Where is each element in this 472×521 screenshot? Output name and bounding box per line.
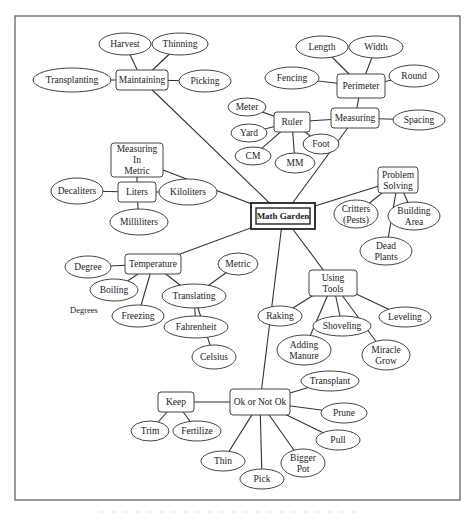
node-label-line: Maintaining: [119, 75, 166, 85]
node-label-line: Grow: [375, 356, 397, 366]
node-perimeter[interactable]: Perimeter: [337, 74, 385, 98]
node-boiling[interactable]: Boiling: [90, 279, 138, 301]
node-label-line: Miracle: [371, 345, 401, 355]
node-using-tools[interactable]: UsingTools: [309, 270, 357, 296]
node-label-line: Bigger: [290, 453, 317, 463]
node-meter[interactable]: Meter: [228, 98, 266, 116]
node-cm[interactable]: CM: [235, 147, 271, 165]
node-label-line: Liters: [126, 187, 148, 197]
node-label-line: Fertilize: [181, 426, 213, 436]
node-pull[interactable]: Pull: [316, 430, 360, 450]
node-label-line: Metric: [124, 166, 149, 176]
node-celsius[interactable]: Celsius: [192, 345, 236, 369]
node-length[interactable]: Length: [296, 36, 348, 58]
node-yard[interactable]: Yard: [231, 124, 267, 142]
node-dead-plants[interactable]: DeadPlants: [360, 237, 412, 265]
node-maintaining[interactable]: Maintaining: [116, 70, 168, 90]
node-thinning[interactable]: Thinning: [152, 33, 208, 55]
node-round[interactable]: Round: [389, 65, 439, 87]
node-problem-solving[interactable]: ProblemSolving: [378, 167, 418, 193]
node-label-line: Temperature: [129, 259, 177, 269]
node-keep[interactable]: Keep: [158, 392, 194, 412]
node-label-line: Meter: [236, 102, 260, 112]
node-label-line: Plants: [374, 252, 398, 262]
node-translating[interactable]: Translating: [162, 284, 226, 308]
node-label-line: Critters: [342, 204, 371, 214]
node-temperature[interactable]: Temperature: [125, 254, 181, 274]
node-shoveling[interactable]: Shoveling: [313, 316, 371, 336]
node-picking[interactable]: Picking: [179, 70, 231, 92]
node-label-line: Boiling: [100, 285, 129, 295]
node-critters[interactable]: Critters(Pests): [334, 200, 378, 228]
center-node-math-garden[interactable]: Math Garden: [251, 203, 315, 229]
node-label-line: Foot: [312, 139, 330, 149]
node-thin[interactable]: Thin: [201, 451, 245, 471]
free-label-degrees: Degrees: [70, 305, 98, 315]
node-leveling[interactable]: Leveling: [379, 307, 431, 327]
node-fahrenheit[interactable]: Fahrenheit: [164, 316, 228, 338]
node-foot[interactable]: Foot: [303, 134, 339, 154]
node-adding-manure[interactable]: AddingManure: [277, 335, 331, 365]
node-label-line: Pot: [297, 464, 310, 474]
node-label-line: Solving: [383, 181, 413, 191]
node-mm[interactable]: MM: [275, 153, 315, 173]
node-label-line: Length: [309, 42, 336, 52]
node-harvest[interactable]: Harvest: [99, 33, 151, 55]
node-ruler[interactable]: Ruler: [274, 112, 310, 132]
node-label-line: Measuring: [117, 144, 158, 154]
node-label-line: Using: [322, 273, 345, 283]
node-label-line: (Pests): [343, 215, 369, 226]
node-building-area[interactable]: BuildingArea: [388, 202, 440, 230]
node-ok-not-ok[interactable]: Ok or Not Ok: [230, 389, 290, 415]
node-label-line: Freezing: [121, 311, 154, 321]
node-label-line: Ruler: [281, 117, 303, 127]
node-label-line: Leveling: [388, 312, 422, 322]
node-fertilize[interactable]: Fertilize: [173, 421, 221, 441]
node-label-line: Prune: [333, 408, 355, 418]
node-raking[interactable]: Raking: [258, 306, 302, 326]
node-prune[interactable]: Prune: [321, 403, 367, 423]
node-metric[interactable]: Metric: [218, 253, 258, 275]
node-label-line: Shoveling: [323, 321, 362, 331]
node-kiloliters[interactable]: Kiloliters: [159, 179, 217, 205]
node-transplant[interactable]: Transplant: [301, 371, 359, 391]
node-label-line: Perimeter: [343, 81, 381, 91]
node-label-line: Measuring: [335, 113, 376, 123]
node-label-line: Kiloliters: [170, 187, 206, 197]
node-milliliters[interactable]: Milliliters: [110, 209, 168, 235]
node-trim[interactable]: Trim: [131, 421, 169, 441]
node-fencing[interactable]: Fencing: [265, 67, 319, 89]
node-label-line: Building: [397, 206, 431, 216]
node-label-line: Yard: [240, 128, 258, 138]
node-pick[interactable]: Pick: [240, 469, 284, 489]
node-bigger-pot[interactable]: BiggerPot: [281, 449, 325, 477]
node-label-line: Spacing: [404, 115, 435, 125]
node-measuring-metric[interactable]: MeasuringInMetric: [111, 143, 163, 177]
node-label-line: Width: [364, 42, 388, 52]
node-spacing[interactable]: Spacing: [393, 110, 445, 130]
node-label-line: Manure: [289, 351, 319, 361]
node-label-line: Fencing: [277, 73, 308, 83]
node-label-line: Milliliters: [120, 217, 158, 227]
node-miracle-grow[interactable]: MiracleGrow: [362, 340, 410, 370]
node-measuring[interactable]: Measuring: [331, 108, 379, 128]
node-label-line: Pull: [330, 435, 346, 445]
node-decaliters[interactable]: Decaliters: [51, 178, 103, 204]
node-degree[interactable]: Degree: [65, 256, 111, 278]
node-label-line: Tools: [323, 284, 344, 294]
center-node-label: Math Garden: [257, 211, 310, 221]
node-liters[interactable]: Liters: [118, 182, 156, 202]
node-transplanting[interactable]: Transplanting: [33, 68, 111, 92]
node-label-line: CM: [246, 151, 261, 161]
node-label-line: Dead: [376, 241, 396, 251]
node-label-line: Adding: [290, 340, 319, 350]
nodes-layer: Math GardenMaintainingHarvestThinningTra…: [33, 33, 445, 489]
node-label-line: Harvest: [110, 39, 140, 49]
node-width[interactable]: Width: [349, 36, 403, 58]
node-freezing[interactable]: Freezing: [112, 305, 164, 327]
node-label-line: Decaliters: [58, 186, 97, 196]
node-label-line: Degree: [74, 262, 101, 272]
mind-map-diagram: Math GardenMaintainingHarvestThinningTra…: [0, 0, 472, 521]
node-label-line: Area: [405, 217, 424, 227]
node-label-line: Problem: [382, 170, 415, 180]
